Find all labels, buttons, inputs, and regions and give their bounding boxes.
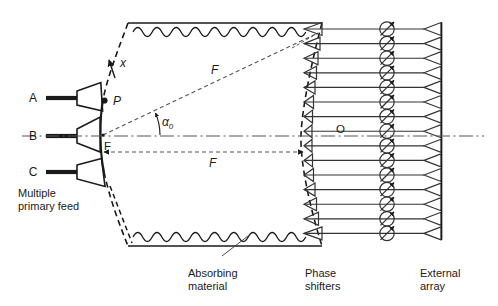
feed-arc-lower-connector <box>110 186 132 243</box>
absorbing-material-top-icon <box>133 28 306 37</box>
horn-antenna-icon <box>424 96 441 109</box>
external-array-horns <box>424 23 442 240</box>
point-label-x: x <box>119 56 127 70</box>
horn-antenna-icon <box>424 212 441 225</box>
horn-antenna-icon <box>424 23 441 36</box>
feed-horn-c <box>77 159 105 187</box>
angle-label: α0 <box>162 115 174 131</box>
horn-antenna-icon <box>424 154 441 167</box>
horn-antenna-icon <box>424 37 441 50</box>
focal-arc-lower-dashed <box>104 172 128 246</box>
horn-antenna-icon <box>424 66 441 79</box>
caption-phase-shifters-line1: Phase <box>305 267 336 279</box>
point-label-o: O <box>336 123 345 135</box>
caption-absorbing-material-line2: material <box>188 280 227 292</box>
caption-multiple-primary-feed-line2: primary feed <box>18 200 79 212</box>
diagram-canvas: A B C x P F O F F α0 Multiple primary fe… <box>0 0 498 306</box>
focal-length-slant-dimension <box>103 33 318 135</box>
point-p-marker <box>101 97 107 103</box>
horn-antenna-icon <box>424 110 441 123</box>
absorbing-material-bottom-icon <box>133 233 306 242</box>
horn-antenna-icon <box>424 81 441 94</box>
alpha-angle-arc <box>156 113 161 135</box>
feed-port-label-c: C <box>29 165 38 179</box>
point-label-f: F <box>104 140 111 152</box>
focus-point-marker <box>101 133 104 136</box>
horn-antenna-icon <box>424 139 441 152</box>
caption-phase-shifters-line2: shifters <box>305 280 341 292</box>
feed-horn-a <box>77 83 103 112</box>
horn-antenna-icon <box>424 227 441 240</box>
horn-antenna-icon <box>424 198 441 211</box>
dimension-label-f-axial: F <box>209 156 217 170</box>
horn-antenna-icon <box>424 183 441 196</box>
caption-external-array-line2: array <box>420 280 446 292</box>
transmission-lines <box>304 29 424 233</box>
feed-port-label-b: B <box>29 129 37 143</box>
caption-external-array-line1: External <box>420 267 460 279</box>
angle-subscript: 0 <box>169 122 174 131</box>
horn-antenna-icon <box>424 169 441 182</box>
primary-feed-assembly <box>46 83 105 187</box>
point-label-p: P <box>113 94 121 108</box>
feed-port-label-a: A <box>29 91 37 105</box>
lens-fed-array-diagram: A B C x P F O F F α0 Multiple primary fe… <box>0 0 498 306</box>
feed-horn-b <box>77 117 100 152</box>
lens-body-outline <box>128 23 322 246</box>
dimension-label-f-slant: F <box>211 63 219 77</box>
caption-absorbing-material-line1: Absorbing <box>188 267 238 279</box>
caption-multiple-primary-feed-line1: Multiple <box>18 187 56 199</box>
horn-antenna-icon <box>424 52 441 65</box>
